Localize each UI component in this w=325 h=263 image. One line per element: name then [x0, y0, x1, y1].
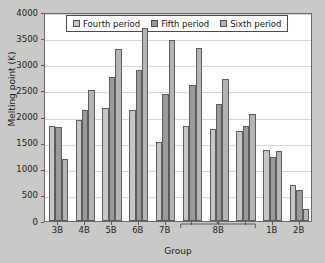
bar [109, 77, 115, 221]
plot-inner [45, 14, 311, 221]
legend-item: Sixth period [220, 19, 281, 29]
bar [76, 120, 82, 221]
x-axis-title: Group [44, 246, 312, 256]
bar [303, 209, 309, 221]
bar [189, 85, 195, 221]
bar [222, 79, 228, 221]
legend-swatch-fourth [73, 20, 80, 27]
legend-item: Fifth period [151, 19, 209, 29]
bar [88, 90, 94, 221]
y-tick-label: 500 [4, 191, 38, 200]
bar [290, 185, 296, 221]
bar [236, 131, 242, 221]
x-tick-label: 7B [159, 225, 170, 235]
bar [196, 48, 202, 221]
gridline [45, 40, 311, 41]
bar [296, 190, 302, 221]
bar [162, 94, 168, 221]
legend-label: Sixth period [230, 19, 281, 29]
bar [129, 110, 135, 221]
x-tick-label: 5B [105, 225, 116, 235]
x-tick-label: 4B [79, 225, 90, 235]
y-tick-label: 2000 [4, 113, 38, 122]
bar [156, 142, 162, 221]
y-tick-label: 1000 [4, 165, 38, 174]
y-tick-label: 3000 [4, 61, 38, 70]
bar [62, 159, 68, 221]
y-tick-label: 0 [4, 218, 38, 227]
y-tick-label: 3500 [4, 35, 38, 44]
gridline [45, 66, 311, 67]
y-tick-label: 4000 [4, 9, 38, 18]
y-tick-label: 2500 [4, 87, 38, 96]
y-tick-label: 1500 [4, 139, 38, 148]
x-tick-label: 2B [293, 225, 304, 235]
legend-swatch-fifth [151, 20, 158, 27]
bar [55, 127, 61, 221]
chart-figure: Melting point (K) 0500100015002000250030… [0, 0, 325, 263]
x-tick-label: 6B [132, 225, 143, 235]
legend-item: Fourth period [73, 19, 140, 29]
bar [82, 110, 88, 221]
chart-legend: Fourth periodFifth periodSixth period [66, 15, 288, 32]
gridline [45, 92, 311, 93]
legend-label: Fourth period [83, 19, 140, 29]
bar [270, 157, 276, 222]
bar [102, 108, 108, 221]
bar [263, 150, 269, 221]
legend-swatch-sixth [220, 20, 227, 27]
bar [243, 126, 249, 222]
bar [276, 151, 282, 221]
x-tick-label: 1B [266, 225, 277, 235]
plot-area [44, 13, 312, 222]
group-brace-8b [180, 222, 256, 229]
bar [142, 28, 148, 221]
bar [115, 49, 121, 221]
y-tick-mark [41, 222, 44, 223]
bar [210, 129, 216, 221]
bar [183, 126, 189, 221]
x-tick-label: 3B [52, 225, 63, 235]
bar [136, 70, 142, 221]
bar [249, 114, 255, 221]
bar [49, 126, 55, 221]
bar [169, 40, 175, 221]
bar [216, 104, 222, 221]
legend-label: Fifth period [161, 19, 209, 29]
